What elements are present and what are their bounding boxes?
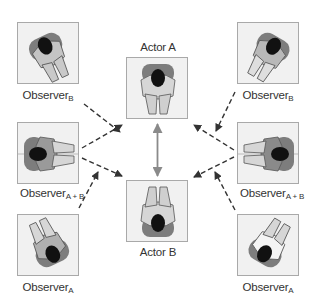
person-topdown-icon [127,181,188,242]
arrow-observer-ab-right-a [194,125,234,150]
actor-a-box [126,57,188,119]
observer-b-left-box [17,22,79,84]
observer-a-left-box [17,214,79,276]
observer-ab-left-label: ObserverA + B [2,187,102,201]
observer-a-left-label: ObserverA [0,281,98,295]
arrow-observer-b-left [84,104,120,132]
person-topdown-icon [18,215,79,276]
observer-b-left-label: ObserverB [0,89,98,103]
observer-b-right-box [237,22,299,84]
observer-ab-left-box [17,122,79,184]
observer-b-right-label: ObserverB [218,89,315,103]
observer-a-right-label: ObserverA [218,281,315,295]
person-topdown-icon [238,123,299,184]
person-topdown-icon [18,23,79,84]
actor-b-box [126,180,188,242]
person-topdown-icon [238,215,299,276]
observer-ab-right-label: ObserverA + B [222,187,315,201]
arrow-observer-ab-right-b [194,157,234,177]
observer-a-right-box [237,214,299,276]
arrow-observer-ab-left-b [82,158,122,176]
actor-a-label: Actor A [108,41,208,53]
actor-b-label: Actor B [108,246,208,258]
person-topdown-icon [238,23,299,84]
person-topdown-icon [127,58,188,119]
observer-ab-right-box [237,122,299,184]
person-topdown-icon [18,123,79,184]
